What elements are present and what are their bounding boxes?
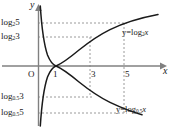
y-value-log2-3-arg: 3 [15, 31, 20, 41]
y-axis-label: y [30, 0, 34, 10]
y-value-log2-3: log23 [1, 32, 20, 42]
curve-label-log2-arg: x [144, 27, 148, 37]
curve-label-log05-arg: x [142, 104, 146, 114]
x-tick-5: 5 [125, 70, 130, 79]
curve-label-log05-prefix: y=log [116, 104, 136, 114]
curve-label-log05: y=log0.5x [116, 105, 146, 115]
curve-label-log2: y=log2x [122, 28, 148, 38]
graph-canvas [0, 0, 173, 129]
y-value-log05-5-arg: 5 [19, 107, 24, 117]
y-value-log05-5: log0.55 [1, 108, 24, 118]
y-value-log05-3: log0.53 [1, 92, 24, 102]
origin-label: O [28, 70, 35, 79]
y-value-log2-5: log25 [1, 18, 20, 28]
y-value-log05-3-arg: 3 [19, 91, 24, 101]
x-axis-label: x [163, 66, 167, 76]
curve-label-log2-prefix: y=log [122, 27, 142, 37]
x-tick-3: 3 [91, 70, 96, 79]
log-graph-figure: y x O 1 3 5 log25 log23 log0.53 log0.55 … [0, 0, 173, 129]
x-tick-1: 1 [53, 70, 58, 79]
y-value-log2-5-arg: 5 [15, 17, 20, 27]
